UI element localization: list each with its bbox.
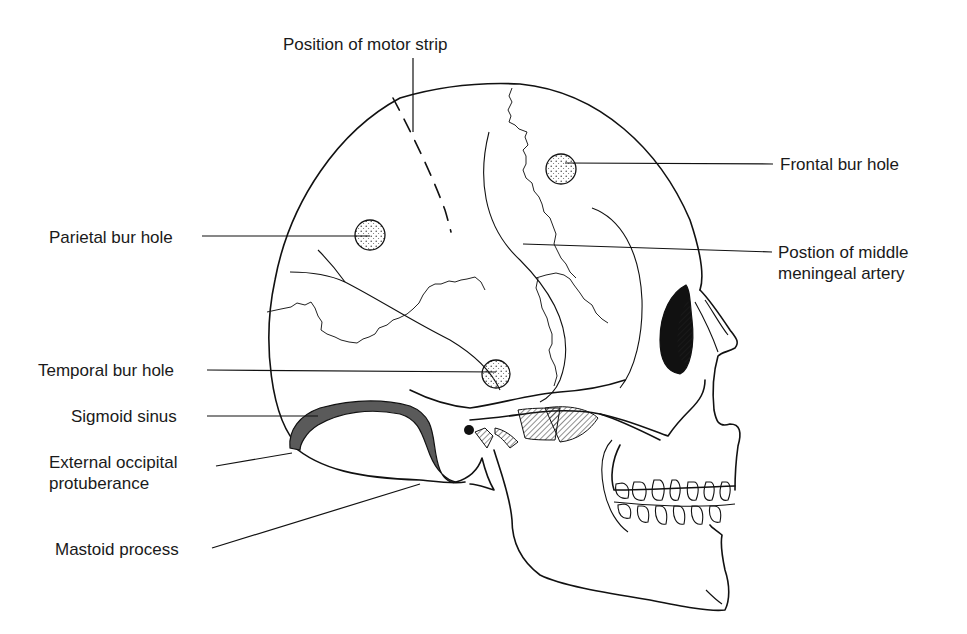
label-parietal-bur-hole: Parietal bur hole <box>49 227 173 248</box>
leader-middle-meningeal <box>523 244 772 252</box>
frontosphenoid-suture <box>536 273 608 323</box>
zygomatic-bone <box>600 380 705 436</box>
label-middle-meningeal-1: Postion of middle <box>778 242 908 263</box>
label-middle-meningeal-2: meningeal artery <box>778 263 905 284</box>
maxilla-front <box>612 445 735 490</box>
face-outline <box>700 290 740 490</box>
upper-teeth <box>616 480 731 500</box>
leader-occipital <box>216 453 292 466</box>
nasal-bone <box>695 300 728 352</box>
label-occipital-1: External occipital <box>49 452 178 473</box>
coronoid-hatch <box>495 428 518 448</box>
leader-mastoid <box>212 484 420 548</box>
label-frontal-bur-hole: Frontal bur hole <box>780 154 899 175</box>
squamosal-suture <box>267 277 485 343</box>
articular-hatch <box>475 428 493 448</box>
skull-diagram: Position of motor strip Frontal bur hole… <box>0 0 967 634</box>
parietal-bur-hole <box>355 220 385 250</box>
label-occipital-2: protuberance <box>49 473 149 494</box>
temporal-bur-hole <box>482 360 510 388</box>
frontal-curve <box>592 208 642 388</box>
occlusal-line <box>614 502 735 506</box>
frontal-bur-hole <box>546 154 576 184</box>
leader-temporal <box>207 370 496 372</box>
lower-teeth <box>618 504 721 524</box>
mastoid-process <box>456 458 494 490</box>
external-auditory-meatus <box>464 425 474 435</box>
label-motor-strip: Position of motor strip <box>283 34 447 55</box>
zygomatic-arch <box>410 380 625 408</box>
label-mastoid-process: Mastoid process <box>55 539 179 560</box>
label-sigmoid-sinus: Sigmoid sinus <box>71 406 177 427</box>
occiput-outline <box>292 445 465 483</box>
leader-frontal <box>565 163 773 164</box>
label-temporal-bur-hole: Temporal bur hole <box>38 360 174 381</box>
sigmoid-sinus <box>290 401 456 483</box>
sphenoid-suture <box>536 278 557 386</box>
motor-strip-dashed <box>393 98 451 232</box>
mandible-chin-line <box>706 590 722 604</box>
